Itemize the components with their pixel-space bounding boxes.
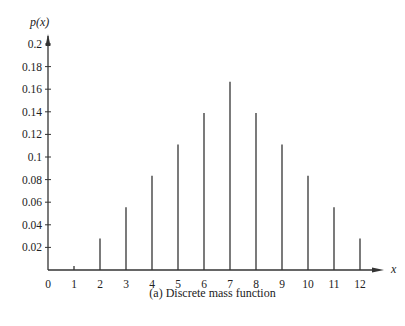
y-tick-label: 0.02: [22, 241, 42, 253]
axes: [45, 34, 384, 273]
y-tick-label: 0.2: [28, 38, 43, 50]
stem-chart: p(x)x0.020.040.060.080.10.120.140.160.18…: [0, 0, 405, 326]
y-tick-label: 0.04: [22, 219, 42, 231]
y-tick-label: 0.06: [22, 196, 42, 208]
y-tick-label: 0.18: [22, 61, 42, 73]
y-tick-label: 0.16: [22, 83, 42, 95]
y-tick-label: 0.12: [22, 128, 42, 140]
stems: [74, 82, 360, 270]
y-tick-label: 0.1: [28, 151, 43, 163]
x-axis-label: x: [390, 262, 397, 276]
x-axis-arrow-icon: [372, 268, 384, 273]
tick-labels: p(x)x0.020.040.060.080.10.120.140.160.18…: [22, 15, 397, 290]
y-tick-label: 0.08: [22, 174, 42, 186]
figure-caption: (a) Discrete mass function: [0, 286, 405, 301]
y-tick-label: 0.14: [22, 106, 42, 118]
y-axis-label: p(x): [29, 15, 49, 29]
